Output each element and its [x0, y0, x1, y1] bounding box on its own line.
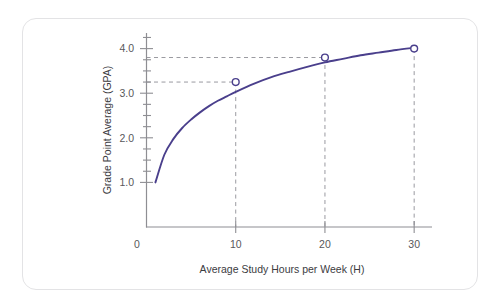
x-tick-label-10: 10	[230, 238, 242, 250]
y-axis-tick-labels: 4.0 3.0 2.0 1.0	[119, 42, 134, 188]
data-point-marker-30[interactable]	[411, 45, 418, 52]
x-axis-title: Average Study Hours per Week (H)	[200, 263, 365, 275]
y-tick-label-3-0: 3.0	[119, 87, 134, 99]
axes-group	[146, 33, 432, 228]
figure-root: 4.0 3.0 2.0 1.0 0 10 20 30 Grade Point A…	[0, 0, 500, 308]
x-tick-label-0: 0	[134, 238, 140, 250]
guide-lines-group	[147, 49, 415, 227]
y-tick-label-4-0: 4.0	[119, 42, 134, 54]
data-point-marker-10[interactable]	[232, 79, 239, 86]
gpa-curve	[155, 48, 414, 183]
x-axis-tick-labels: 0 10 20 30	[134, 238, 420, 250]
x-tick-label-20: 20	[319, 238, 331, 250]
y-axis-title: Grade Point Average (GPA)	[101, 66, 113, 195]
x-tick-label-30: 30	[408, 238, 420, 250]
y-tick-label-1-0: 1.0	[119, 176, 134, 188]
data-point-marker-20[interactable]	[322, 54, 329, 61]
y-tick-label-2-0: 2.0	[119, 132, 134, 144]
gpa-study-hours-line-chart: 4.0 3.0 2.0 1.0 0 10 20 30 Grade Point A…	[0, 0, 500, 308]
